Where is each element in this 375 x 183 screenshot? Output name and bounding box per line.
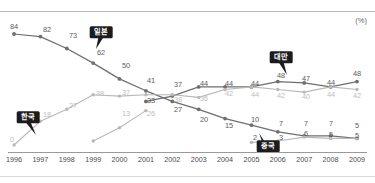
data-value-label: 26 [147, 110, 155, 117]
data-value-label: 84 [10, 23, 18, 30]
data-value-label: 37 [174, 81, 182, 88]
data-point [144, 89, 148, 93]
x-axis-tick-label: 2002 [164, 155, 180, 164]
data-value-label: 37 [122, 89, 130, 96]
data-value-label: 20 [200, 116, 208, 123]
data-value-label: 7 [279, 120, 283, 127]
data-point [92, 93, 95, 96]
data-point [92, 139, 95, 142]
data-value-label: 36 [200, 95, 208, 102]
data-value-label: 3 [279, 134, 283, 141]
x-axis-tick-label: 2008 [323, 155, 339, 164]
data-point [118, 77, 122, 81]
data-value-label: 82 [43, 26, 51, 33]
bottom-divider [0, 176, 375, 177]
data-value-label: 48 [277, 72, 285, 79]
data-value-label: 6 [304, 130, 308, 137]
x-axis-labels: 1996199719981999200020012002200320042005… [0, 155, 375, 169]
x-axis-tick-label: 2009 [349, 155, 365, 164]
x-axis-tick-label: 2006 [270, 155, 286, 164]
data-point [39, 35, 43, 39]
data-value-label: 7 [304, 120, 308, 127]
data-point [223, 117, 227, 121]
data-value-label: 44 [225, 80, 233, 87]
data-value-label: 44 [327, 91, 335, 98]
x-axis-tick-label: 2001 [138, 155, 154, 164]
data-value-label: 48 [353, 70, 361, 77]
data-value-label: 40 [302, 93, 310, 100]
data-value-label: 62 [97, 49, 105, 56]
data-value-label: 47 [302, 75, 310, 82]
data-value-label: 7 [329, 120, 333, 127]
series-callout-대만[interactable]: 대만 [270, 51, 293, 63]
data-value-label: 44 [251, 91, 259, 98]
x-axis-tick-label: 2004 [217, 155, 233, 164]
data-value-label: 42 [277, 92, 285, 99]
series-callout-일본[interactable]: 일본 [90, 26, 113, 38]
data-value-label: 5 [329, 131, 333, 138]
data-value-label: 44 [251, 80, 259, 87]
data-point [118, 126, 121, 129]
data-value-label: 44 [327, 79, 335, 86]
data-value-label: 10 [251, 116, 259, 123]
series-callout-한국[interactable]: 한국 [17, 111, 40, 123]
data-value-label: 38 [174, 96, 182, 103]
x-axis-tick-label: 2005 [243, 155, 259, 164]
data-point [355, 80, 359, 84]
data-value-label: 5 [355, 122, 359, 129]
data-value-label: 13 [122, 110, 130, 117]
series-line [93, 111, 146, 141]
series-callout-중국[interactable]: 중국 [257, 140, 280, 152]
x-axis-tick-label: 1997 [32, 155, 48, 164]
data-value-label: 38 [96, 90, 104, 97]
data-value-label: 50 [122, 62, 130, 69]
data-point [118, 94, 121, 97]
data-value-label: 15 [225, 122, 233, 129]
x-axis-tick-label: 2007 [296, 155, 312, 164]
data-value-label: 27 [69, 102, 77, 109]
data-value-label: 44 [200, 80, 208, 87]
data-value-label: 27 [174, 106, 182, 113]
callout-tail [96, 37, 104, 49]
x-axis-tick-label: 2000 [112, 155, 128, 164]
x-axis-tick-label: 1999 [85, 155, 101, 164]
data-value-label: 5 [355, 132, 359, 139]
x-axis-tick-label: 2003 [191, 155, 207, 164]
data-value-label: 41 [147, 77, 155, 84]
data-point [12, 32, 16, 36]
data-value-label: 0 [10, 136, 14, 143]
data-point [65, 47, 69, 51]
data-value-label: 73 [69, 32, 77, 39]
x-axis-tick-label: 1998 [59, 155, 75, 164]
x-axis-line [8, 152, 367, 153]
chart-canvas: (%) 848273625041333727442044154410487477… [0, 0, 375, 183]
data-value-label: 42 [353, 92, 361, 99]
x-axis-tick-label: 1996 [6, 155, 22, 164]
data-value-label: 33 [147, 97, 155, 104]
data-point [197, 107, 201, 111]
data-point [91, 61, 95, 65]
data-value-label: 18 [43, 111, 51, 118]
data-value-label: 42 [225, 90, 233, 97]
